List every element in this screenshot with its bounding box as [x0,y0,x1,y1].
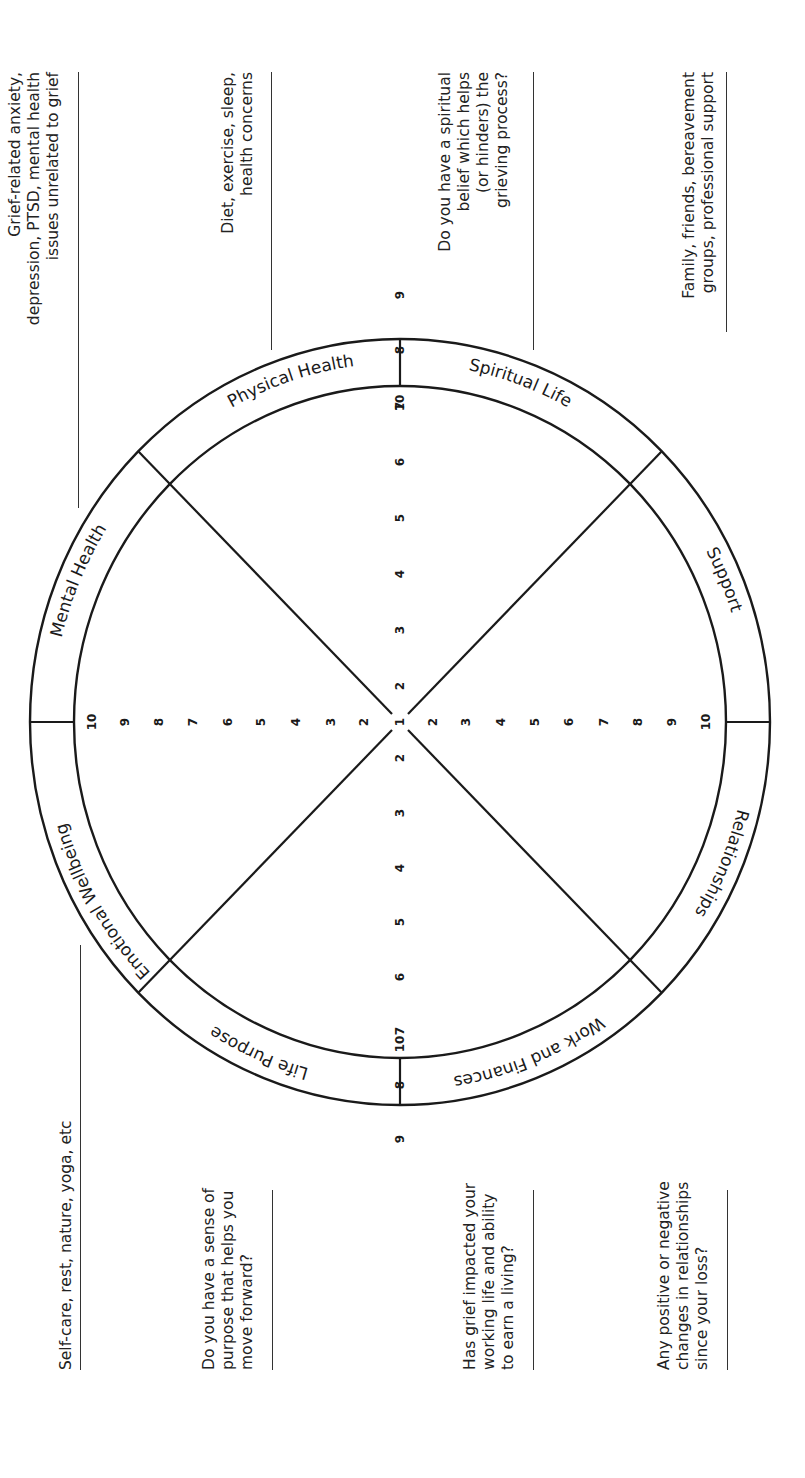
segment-label-spiritual-life: Spiritual Life [467,354,575,411]
svg-text:6: 6 [393,973,407,981]
svg-text:9: 9 [118,718,132,726]
svg-text:7: 7 [393,1027,407,1035]
svg-text:2: 2 [393,682,407,690]
svg-text:7: 7 [597,718,611,726]
svg-text:6: 6 [393,458,407,466]
svg-text:10: 10 [393,1036,407,1053]
svg-text:8: 8 [152,718,166,726]
svg-text:9: 9 [393,291,407,299]
svg-text:2: 2 [393,754,407,762]
svg-text:5: 5 [393,918,407,926]
svg-text:4: 4 [289,718,303,726]
svg-text:4: 4 [393,864,407,872]
svg-text:5: 5 [393,514,407,522]
svg-text:1: 1 [393,718,407,726]
segment-label-physical-health: Physical Health [224,350,355,411]
svg-text:3: 3 [459,718,473,726]
svg-text:4: 4 [393,570,407,578]
svg-text:8: 8 [393,346,407,354]
svg-text:6: 6 [562,718,576,726]
scale-down: 2 3 4 5 6 7 8 9 10 [393,754,407,1143]
scale-left: 2 3 4 5 6 7 8 9 10 [85,714,371,731]
svg-text:5: 5 [528,718,542,726]
svg-text:10: 10 [393,395,407,412]
svg-text:5: 5 [254,718,268,726]
svg-text:8: 8 [393,1081,407,1089]
svg-text:4: 4 [494,718,508,726]
svg-text:7: 7 [186,718,200,726]
scale-up: 2 3 4 5 6 7 8 9 10 [393,291,407,690]
svg-text:8: 8 [631,718,645,726]
svg-text:2: 2 [426,718,440,726]
svg-text:10: 10 [85,714,99,731]
scale-center: 1 [393,718,407,726]
segment-label-support: Support [702,544,747,615]
svg-text:10: 10 [699,714,713,731]
svg-text:3: 3 [393,809,407,817]
grief-wheel[interactable]: Physical Health Spiritual Life Support R… [0,0,805,1478]
segment-label-emotional-wellbeing: Emotional Wellbeing [50,821,153,983]
svg-text:6: 6 [221,718,235,726]
scale-right: 2 3 4 5 6 7 8 9 10 [426,714,713,731]
svg-text:9: 9 [665,718,679,726]
svg-text:3: 3 [324,718,338,726]
svg-text:2: 2 [357,718,371,726]
svg-text:3: 3 [393,626,407,634]
svg-text:9: 9 [393,1135,407,1143]
